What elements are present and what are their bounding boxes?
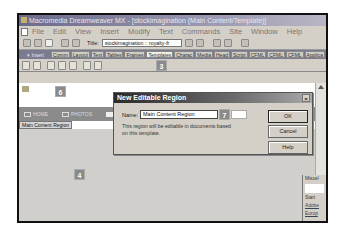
tab-layout[interactable]: Layout <box>71 51 90 58</box>
tab-head[interactable]: Head <box>214 51 230 58</box>
new-editable-region-dialog: New Editable Region × Name: Main Content… <box>113 92 313 155</box>
repeating-table-icon[interactable] <box>94 61 102 70</box>
side-panel: Miscel Start Adobe Europ <box>302 175 326 223</box>
panel-item-start[interactable]: Start <box>303 194 326 202</box>
panel-item-adobe[interactable]: Adobe <box>303 202 326 210</box>
callout-6: 6 <box>55 86 66 97</box>
editable-region-label[interactable]: Main Content Region <box>19 121 72 129</box>
menu-edit[interactable]: Edit <box>53 27 66 36</box>
nav-photos-label: PHOTOS <box>71 111 92 117</box>
dialog-body: Name: Main Content Region 7 This region … <box>114 103 312 156</box>
name-label: Name: <box>122 112 138 118</box>
code-navigation-icon[interactable] <box>241 39 249 47</box>
menu-insert[interactable]: Insert <box>100 27 119 36</box>
preview-icon[interactable] <box>196 39 204 47</box>
cancel-button[interactable]: Cancel <box>268 125 308 138</box>
split-view-icon[interactable] <box>34 39 42 47</box>
server-debug-icon[interactable] <box>72 39 80 47</box>
ok-button[interactable]: OK <box>268 110 308 123</box>
title-bar: Macromedia Dreamweaver MX - [stockimagin… <box>19 15 326 26</box>
tab-common[interactable]: Comm <box>51 51 70 58</box>
nav-photos[interactable]: PHOTOS <box>62 111 92 117</box>
menu-commands[interactable]: Commands <box>182 27 220 36</box>
page-icon <box>22 86 29 92</box>
callout-4: 4 <box>74 169 85 180</box>
make-template-icon[interactable] <box>22 61 30 70</box>
dialog-title: New Editable Region <box>117 94 186 101</box>
callout-7: 7 <box>219 109 230 120</box>
title-label: Title: <box>87 40 99 46</box>
name-input-extension[interactable] <box>231 110 247 119</box>
document-icon <box>21 28 28 36</box>
menu-site[interactable]: Site <box>229 27 242 36</box>
menu-view[interactable]: View <box>75 27 91 36</box>
editable-optional-region-icon[interactable] <box>83 61 91 70</box>
window-title: Macromedia Dreamweaver MX - [stockimagin… <box>29 17 266 24</box>
refresh-icon[interactable] <box>213 39 221 47</box>
panel-field[interactable] <box>305 184 324 193</box>
tab-frames[interactable]: Frames <box>124 51 145 58</box>
optional-region-icon[interactable] <box>58 61 66 70</box>
tab-tables[interactable]: Tables <box>105 51 123 58</box>
tab-cfml-3[interactable]: CFML <box>286 51 304 58</box>
menu-bar: File Edit View Insert Modify Text Comman… <box>19 26 326 37</box>
tab-cfml-1[interactable]: CFML <box>249 51 267 58</box>
callout-3: 3 <box>156 60 167 71</box>
dialog-description: This region will be editable in document… <box>122 123 232 137</box>
nav-home-label: HOME <box>33 111 48 117</box>
tab-media[interactable]: Media <box>195 51 213 58</box>
menu-modify[interactable]: Modify <box>128 27 150 36</box>
document-toolbar: Title: stockimagination :: royalty-fr <box>19 37 326 50</box>
scroll-up-icon[interactable] <box>318 85 324 89</box>
tab-characters[interactable]: Charac <box>174 51 194 58</box>
tab-text[interactable]: Text <box>91 51 104 58</box>
dialog-title-bar[interactable]: New Editable Region × <box>114 93 312 103</box>
nav-home[interactable]: HOME <box>24 111 48 117</box>
live-data-icon[interactable] <box>61 39 69 47</box>
editable-region-icon[interactable] <box>47 61 55 70</box>
code-view-icon[interactable] <box>23 39 31 47</box>
help-button[interactable]: Help <box>268 141 308 154</box>
make-nested-template-icon[interactable] <box>33 61 41 70</box>
design-view-icon[interactable] <box>45 39 53 47</box>
photos-icon <box>62 112 69 117</box>
region-name-input[interactable]: Main Content Region <box>140 110 218 119</box>
view-options-icon[interactable] <box>224 39 232 47</box>
close-icon[interactable]: × <box>302 94 310 102</box>
menu-window[interactable]: Window <box>251 27 278 36</box>
menu-help[interactable]: Help <box>287 27 302 36</box>
repeating-region-icon[interactable] <box>69 61 77 70</box>
page-title-input[interactable]: stockimagination :: royalty-fr <box>102 39 182 47</box>
tab-templates[interactable]: Templates <box>146 51 173 58</box>
panel-item-europ[interactable]: Europ <box>303 210 326 218</box>
menu-text[interactable]: Text <box>159 27 173 36</box>
tab-script[interactable]: Script <box>231 51 248 58</box>
insert-label[interactable]: ▾ Insert <box>21 52 51 58</box>
tab-cfml-2[interactable]: CFML <box>267 51 285 58</box>
home-icon <box>24 112 31 117</box>
tab-application[interactable]: Applica <box>305 51 325 58</box>
insert-bar: ▾ Insert Comm Layout Text Tables Frames … <box>19 50 326 59</box>
panel-item-misc[interactable]: Miscel <box>303 175 326 183</box>
templates-icon-row: 3 <box>19 59 326 72</box>
app-icon <box>21 17 27 23</box>
file-management-icon[interactable] <box>185 39 193 47</box>
menu-file[interactable]: File <box>32 27 44 36</box>
